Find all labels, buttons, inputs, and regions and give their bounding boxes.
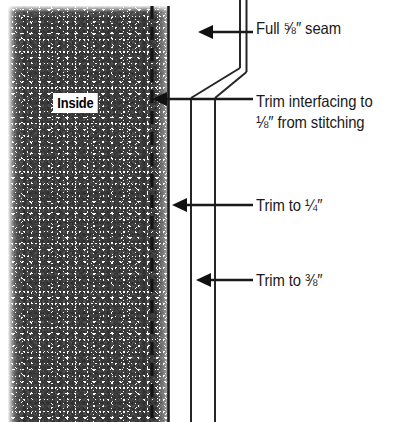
- arrowhead-trim-quarter: [172, 198, 187, 212]
- callout-trim-eighth: Trim to ⅜″: [256, 270, 323, 291]
- callout-trim-quarter: Trim to ¼″: [256, 195, 323, 216]
- callout-trim-interfacing-line2: ⅛″ from stitching: [256, 112, 373, 133]
- callout-trim-eighth-line1: Trim to ⅜″: [256, 270, 323, 291]
- callout-full-seam-line1: Full ⅝″ seam: [256, 18, 341, 39]
- seam-allowance-taper-diagonal: [215, 72, 247, 98]
- callout-trim-quarter-line1: Trim to ¼″: [256, 195, 323, 216]
- inside-fabric-label: Inside: [53, 93, 98, 113]
- arrowhead-trim-interfacing: [152, 92, 167, 106]
- callout-full-seam: Full ⅝″ seam: [256, 18, 341, 39]
- callout-trim-interfacing-line1: Trim interfacing to: [256, 91, 373, 112]
- arrowhead-full-seam: [198, 25, 213, 39]
- sewing-diagram: Inside Full ⅝″ seam Trim interfacing to …: [0, 0, 397, 422]
- diagram-lineart: [0, 0, 397, 422]
- arrowhead-trim-eighth: [196, 273, 211, 287]
- callout-trim-interfacing: Trim interfacing to ⅛″ from stitching: [256, 91, 373, 133]
